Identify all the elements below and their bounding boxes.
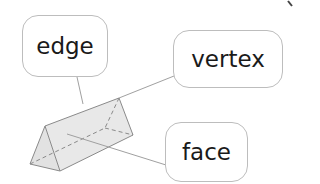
triangular-prism bbox=[30, 98, 133, 171]
vertex-leader-line bbox=[119, 76, 174, 98]
label-vertex-text: vertex bbox=[191, 46, 265, 72]
corner-mark bbox=[288, 1, 292, 6]
edge-leader-line bbox=[77, 77, 83, 104]
label-face: face bbox=[165, 122, 248, 182]
label-vertex: vertex bbox=[173, 30, 283, 88]
label-edge: edge bbox=[22, 15, 108, 77]
label-edge-text: edge bbox=[36, 33, 94, 59]
label-face-text: face bbox=[182, 139, 231, 165]
